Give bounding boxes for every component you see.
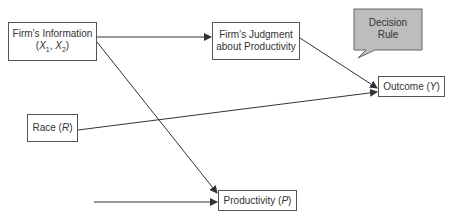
node-outcome: Outcome (Y) <box>378 76 445 97</box>
productivity-label: Productivity (P) <box>224 195 292 207</box>
edge-race-to-outcome <box>78 92 377 130</box>
firms-information-vars: (X1, X2) <box>36 40 69 56</box>
node-productivity: Productivity (P) <box>218 190 297 211</box>
decision-rule-line2: Rule <box>378 29 399 41</box>
firms-information-label: Firm’s Information <box>13 28 93 40</box>
decision-rule-callout: Decision Rule <box>354 9 422 49</box>
race-label: Race (R) <box>32 122 72 134</box>
edge-info-to-productivity <box>97 42 217 193</box>
node-race: Race (R) <box>27 114 78 142</box>
firms-judgment-line2: about Productivity <box>216 41 296 53</box>
outcome-label: Outcome (Y) <box>383 81 440 93</box>
decision-rule-line1: Decision <box>369 17 407 29</box>
firms-judgment-line1: Firm’s Judgment <box>219 29 293 41</box>
node-firms-judgment: Firm’s Judgment about Productivity <box>212 22 300 60</box>
node-firms-information: Firm’s Information (X1, X2) <box>8 22 97 61</box>
